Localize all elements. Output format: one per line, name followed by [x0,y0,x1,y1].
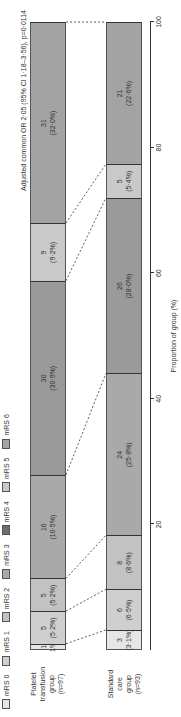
chart-canvas: mRS 0mRS 1mRS 2mRS 3mRS 4mRS 5mRS 6 Adju… [0,0,181,717]
x-axis-tick [150,523,154,524]
x-axis-tick [150,21,154,22]
x-axis-line [150,22,151,650]
x-axis-tick [150,398,154,399]
x-axis-tick [150,147,154,148]
x-axis-tick-label: 20 [155,521,162,529]
x-axis-tick-label: 60 [155,269,162,277]
x-axis-title: Proportion of group (%) [170,300,177,373]
x-axis-tick-label: 80 [155,144,162,152]
x-axis-tick [150,272,154,273]
x-axis-tick-label: 40 [155,395,162,403]
segment-connector-lines [0,0,181,717]
x-axis-tick-label: 100 [155,16,162,28]
